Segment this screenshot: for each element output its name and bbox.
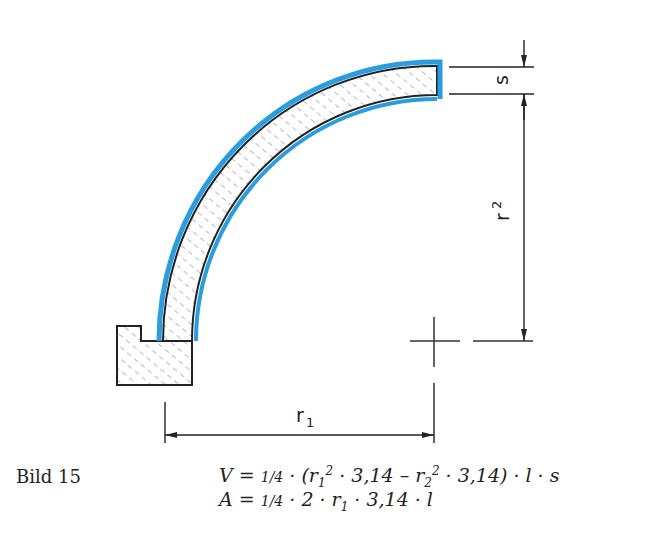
dot: · xyxy=(283,464,301,486)
eq: = xyxy=(233,488,261,510)
eq: = xyxy=(233,464,261,486)
area-formula: A = 1/4 · 2 · r1 · 3,14 · l xyxy=(219,488,433,514)
fraction: 1/4 xyxy=(261,469,284,485)
term-mid: · 3,14 – r xyxy=(333,464,424,486)
quarter-ring-section xyxy=(163,66,437,341)
volume-formula: V = 1/4 · (r12 · 3,14 – r22 · 3,14) · l … xyxy=(219,464,559,490)
term-mid: · 2 · r xyxy=(283,488,340,510)
r2-subscript: 2 xyxy=(489,201,504,209)
r2-label: r xyxy=(491,213,513,221)
s-label: s xyxy=(490,75,512,85)
term-tail: · 3,14 · l xyxy=(348,488,433,510)
center-mark xyxy=(410,317,533,367)
quarter-ring-drawing: s r 2 r 1 xyxy=(0,0,652,538)
term-tail: · 3,14) · l · s xyxy=(440,464,560,486)
area-lhs: A xyxy=(219,488,233,510)
r1-subscript: 1 xyxy=(306,415,314,430)
inner-surface-highlight xyxy=(196,99,437,341)
sup: 2 xyxy=(432,464,440,478)
volume-lhs: V xyxy=(219,464,233,486)
fraction: 1/4 xyxy=(261,493,284,509)
r2-label-group: r 2 xyxy=(489,201,513,221)
r1-label: r xyxy=(296,404,304,426)
term-open: (r xyxy=(301,464,318,486)
figure-caption: Bild 15 xyxy=(16,466,81,487)
